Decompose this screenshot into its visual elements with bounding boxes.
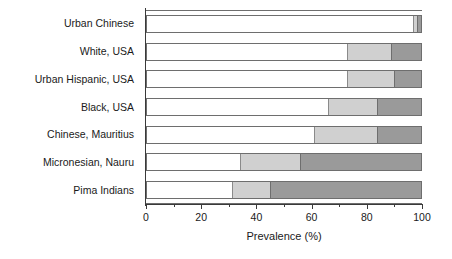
x-axis-tick-label: 80	[347, 211, 387, 223]
bar-segment-normal	[147, 127, 314, 143]
x-axis-minor-tick	[394, 204, 395, 207]
bar-row	[146, 181, 422, 199]
bar-row	[146, 153, 422, 171]
x-axis-major-tick	[312, 204, 313, 209]
bar-segment-igt	[347, 71, 394, 87]
bar-row	[146, 70, 422, 88]
bar-segment-normal	[147, 71, 347, 87]
x-axis-minor-tick	[339, 204, 340, 207]
bar-segment-normal	[147, 44, 347, 60]
bar-segment-normal	[147, 154, 240, 170]
bar-segment-igt	[314, 127, 377, 143]
x-axis-tick-label: 20	[181, 211, 221, 223]
x-axis-major-tick	[146, 204, 147, 209]
bar-segment-normal	[147, 99, 328, 115]
plot-area	[146, 10, 422, 204]
y-axis-category-label: Chinese, Mauritius	[0, 129, 134, 140]
bar-segment-diabetes	[391, 44, 421, 60]
y-axis-category-labels: Urban ChineseWhite, USAUrban Hispanic, U…	[0, 10, 140, 204]
bar-row	[146, 98, 422, 116]
y-axis-category-label: Pima Indians	[0, 185, 134, 196]
y-axis-category-label: Urban Chinese	[0, 18, 134, 29]
bar-segment-diabetes	[394, 71, 421, 87]
bar-segment-diabetes	[377, 99, 421, 115]
bar-segment-diabetes	[270, 182, 421, 198]
y-axis-category-label: White, USA	[0, 46, 134, 57]
x-axis-major-tick	[422, 204, 423, 209]
bar-segment-igt	[347, 44, 391, 60]
bar-segment-normal	[147, 182, 232, 198]
bar-row	[146, 126, 422, 144]
x-axis-tick-label: 60	[292, 211, 332, 223]
bar-segment-diabetes	[417, 16, 421, 32]
bar-segment-igt	[240, 154, 300, 170]
bar-segment-diabetes	[300, 154, 421, 170]
x-axis-minor-tick	[229, 204, 230, 207]
bar-segment-diabetes	[377, 127, 421, 143]
x-axis-title: Prevalence (%)	[146, 230, 422, 242]
bar-segment-igt	[328, 99, 377, 115]
x-axis-major-tick	[367, 204, 368, 209]
x-axis-major-tick	[256, 204, 257, 209]
x-axis-major-tick	[201, 204, 202, 209]
x-axis-tick-label: 100	[402, 211, 442, 223]
x-axis-minor-tick	[174, 204, 175, 207]
x-axis-tick-label: 0	[126, 211, 166, 223]
bar-row	[146, 15, 422, 33]
bar-row	[146, 43, 422, 61]
y-axis-category-label: Micronesian, Nauru	[0, 157, 134, 168]
prevalence-stacked-bar-chart: Urban ChineseWhite, USAUrban Hispanic, U…	[0, 0, 452, 259]
y-axis-category-label: Black, USA	[0, 102, 134, 113]
bar-segment-normal	[147, 16, 413, 32]
y-axis-category-label: Urban Hispanic, USA	[0, 74, 134, 85]
bar-segment-igt	[232, 182, 270, 198]
x-axis-minor-tick	[284, 204, 285, 207]
x-axis-tick-label: 40	[236, 211, 276, 223]
